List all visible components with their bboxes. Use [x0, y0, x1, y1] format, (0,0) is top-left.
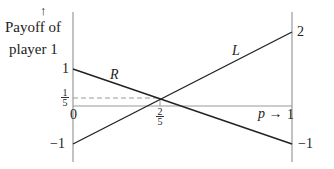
left-tick-one-fifth: 1 5: [60, 88, 70, 107]
x-tick-two-fifths: 2 5: [155, 107, 165, 126]
right-tick-minus-1: −1: [298, 137, 313, 151]
left-tick-0: 0: [70, 108, 77, 122]
series-label-L: L: [232, 44, 240, 58]
x-axis-label: p →: [258, 107, 283, 121]
y-axis-arrow-icon: ↑: [40, 4, 47, 18]
frac-denominator: 5: [158, 116, 163, 127]
right-tick-1: 1: [287, 108, 294, 122]
y-axis-label-line1: Payoff of: [5, 20, 61, 34]
left-tick-1: 1: [62, 62, 69, 76]
line-L: [73, 32, 292, 144]
series-label-R: R: [110, 68, 119, 82]
y-axis-label-line2: player 1: [9, 42, 58, 56]
right-tick-2: 2: [297, 25, 304, 39]
left-tick-minus-1: −1: [50, 137, 65, 151]
frac-denominator: 5: [63, 97, 68, 108]
